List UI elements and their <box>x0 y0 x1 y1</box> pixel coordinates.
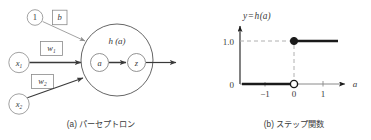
input-node-x2-label: x2 <box>15 99 23 110</box>
activation-function-label: h (a) <box>108 36 125 46</box>
weight-w1-label: w1 <box>47 44 56 54</box>
bias-weight-box: b <box>53 10 68 25</box>
panel-a-perceptron: 1 b x1 w1 x2 w2 <box>9 10 176 129</box>
bias-node: 1 <box>27 10 43 26</box>
output-node-label: z <box>134 59 139 68</box>
x-tick-label-zero: 0 <box>292 89 297 99</box>
x-tick-label-minus1: −1 <box>260 89 270 99</box>
y-tick-label-0: 0 <box>230 80 235 90</box>
weight-box-w1: w1 <box>41 42 63 56</box>
input-node-x1: x1 <box>9 52 29 72</box>
x-tick-label-one: 1 <box>321 89 326 99</box>
weight-w2-label: w2 <box>38 77 47 87</box>
bias-weight-label: b <box>58 12 63 22</box>
closed-point-marker <box>290 37 297 44</box>
bias-node-label: 1 <box>33 12 37 22</box>
panel-a-caption: (a) パーセプトロン <box>67 120 135 129</box>
panel-b-step-function: y=h(a) a 1.0 0 −1 0 1 (b) ステップ関数 <box>223 11 358 129</box>
weight-box-w2: w2 <box>32 75 54 89</box>
open-point-marker <box>290 80 297 87</box>
input-node-x1-label: x1 <box>15 58 23 69</box>
output-node: z <box>128 54 146 72</box>
panel-b-caption: (b) ステップ関数 <box>264 119 324 129</box>
y-axis-title: y=h(a) <box>242 11 271 22</box>
pre-activation-node: a <box>91 54 109 72</box>
figure-perceptron-and-step-function: 1 b x1 w1 x2 w2 <box>0 0 371 140</box>
x-axis-label: a <box>353 79 358 89</box>
input-node-x2: x2 <box>9 94 29 114</box>
input-arrow-x2 <box>27 78 83 98</box>
y-tick-label-1: 1.0 <box>223 37 235 47</box>
pre-activation-label: a <box>97 59 101 68</box>
